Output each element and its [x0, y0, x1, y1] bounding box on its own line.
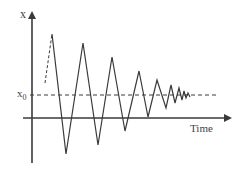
y-axis-label: x: [20, 7, 26, 21]
damped-oscillation-diagram: x x0 Time: [0, 0, 241, 170]
oscillation-curve: [52, 34, 190, 154]
equilibrium-label-subscript: 0: [23, 93, 27, 102]
initial-displacement-dashed: [45, 34, 52, 83]
equilibrium-label: x0: [17, 87, 27, 102]
x-axis-label: Time: [190, 122, 213, 134]
